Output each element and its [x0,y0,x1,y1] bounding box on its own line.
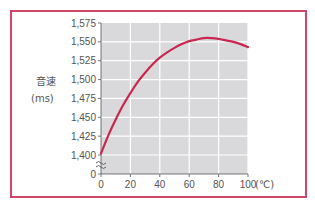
y-axis-title: 音速 [36,75,56,87]
y-tick-label: 1,525 [71,55,96,66]
x-tick-label: 20 [125,179,137,190]
y-tick-label: 1,500 [71,74,96,85]
y-tick-label: 1,575 [71,18,96,29]
sound-speed-chart: 1,4001,4251,4501,4751,5001,5251,5501,575… [0,0,315,206]
x-axis-unit: (℃) [255,179,274,190]
x-tick-label: 40 [154,179,166,190]
y-tick-label: 1,550 [71,36,96,47]
y-tick-label: 1,425 [71,131,96,142]
x-tick-label: 80 [213,179,225,190]
x-tick-label: 60 [184,179,196,190]
x-tick-label: 0 [98,179,104,190]
y-tick-label: 1,450 [71,112,96,123]
y-axis-unit: (ms) [31,93,54,104]
y-tick-label: 1,400 [71,150,96,161]
y-tick-label: 1,475 [71,93,96,104]
y-tick-label-zero: 0 [90,169,96,180]
